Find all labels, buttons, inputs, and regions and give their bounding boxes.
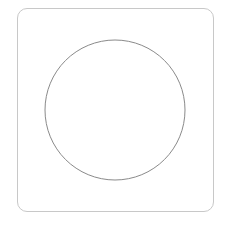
circle-shape bbox=[45, 40, 185, 180]
circle-canvas bbox=[0, 0, 231, 226]
